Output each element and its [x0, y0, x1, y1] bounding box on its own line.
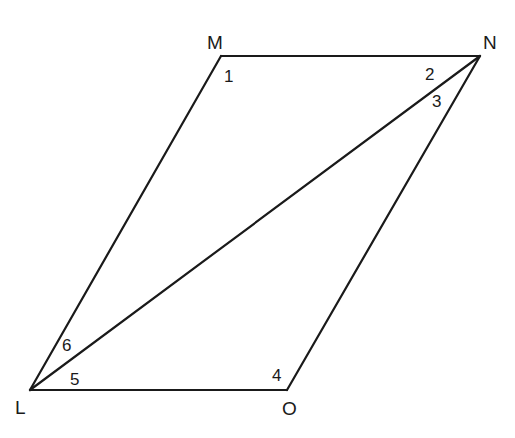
angle-label-3: 3 [432, 92, 441, 111]
diagonal-ln [30, 56, 480, 390]
vertex-label-m: M [207, 32, 223, 53]
vertex-label-o: O [282, 398, 297, 419]
angle-label-6: 6 [62, 336, 71, 355]
angle-label-4: 4 [272, 366, 281, 385]
angle-label-5: 5 [70, 370, 79, 389]
side-no [287, 56, 480, 390]
vertex-label-l: L [15, 397, 26, 418]
vertex-label-n: N [483, 32, 497, 53]
side-lm [30, 56, 221, 390]
angle-label-1: 1 [224, 67, 233, 86]
angle-label-2: 2 [425, 65, 434, 84]
parallelogram-diagram: M N L O 1 2 3 4 5 6 [0, 0, 515, 438]
